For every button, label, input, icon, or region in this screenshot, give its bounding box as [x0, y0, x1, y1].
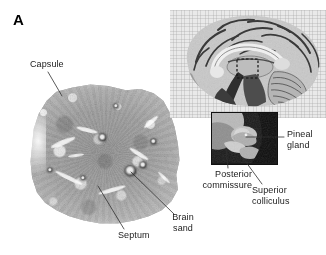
brain-sand-concretion — [151, 139, 156, 144]
histology-micrograph — [24, 80, 186, 228]
label-superior-colliculus-line2: colliculus — [252, 196, 290, 207]
label-brain-sand-line2: sand — [168, 223, 198, 234]
midsagittal-brain-inset — [170, 10, 326, 118]
brain-sand-concretion — [125, 166, 136, 176]
label-pineal-gland-line1: Pineal — [287, 129, 313, 140]
label-superior-colliculus-line1: Superior — [252, 185, 287, 196]
label-septum: Septum — [118, 230, 150, 241]
brain-sand-concretion — [140, 162, 146, 168]
brain-sand-concretion — [114, 104, 118, 108]
pineal-closeup-inset — [211, 112, 278, 165]
pineal-closeup-drawing — [212, 113, 276, 163]
label-brain-sand-line1: Brain — [168, 212, 198, 223]
label-posterior-commissure-line1: Posterior — [178, 169, 252, 180]
brain-section-drawing — [170, 10, 326, 118]
label-posterior-commissure-line2: commissure — [178, 180, 252, 191]
brain-sand-concretion — [48, 168, 52, 172]
label-capsule: Capsule — [30, 59, 64, 70]
tissue-speckle-texture — [24, 80, 186, 228]
figure-panel-a: A — [0, 0, 326, 255]
label-pineal-gland-line2: gland — [287, 140, 310, 151]
panel-letter-a: A — [13, 11, 24, 28]
brain-sand-concretion — [81, 176, 85, 180]
brain-sand-concretion — [99, 134, 106, 141]
